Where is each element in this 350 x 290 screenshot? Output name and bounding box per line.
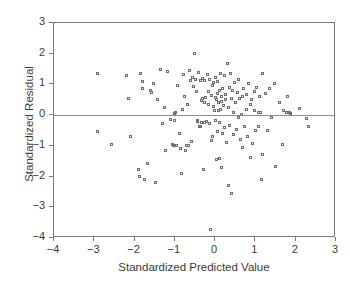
data-point [213, 109, 216, 112]
data-point [159, 68, 162, 71]
data-point [139, 72, 142, 75]
data-point [169, 118, 172, 121]
data-point [242, 87, 245, 90]
data-point [240, 113, 243, 116]
data-point [210, 139, 213, 142]
data-point [286, 95, 289, 98]
data-point [220, 95, 223, 98]
data-point [190, 140, 193, 143]
data-point [234, 101, 237, 104]
data-point [239, 138, 242, 141]
y-tick-mark [49, 237, 53, 238]
data-point [161, 122, 164, 125]
data-point [178, 132, 181, 135]
data-point [216, 80, 219, 83]
data-point [264, 92, 267, 95]
data-point [266, 129, 269, 132]
data-point [207, 90, 210, 93]
data-point [258, 95, 261, 98]
data-point [96, 130, 99, 133]
data-point [194, 78, 197, 81]
data-point [261, 72, 264, 75]
data-point [227, 106, 230, 109]
data-point [219, 108, 222, 111]
y-axis-label: Standardized Residual [23, 39, 35, 209]
data-point [208, 122, 211, 125]
data-point [187, 144, 190, 147]
data-point [273, 82, 276, 85]
data-point [216, 92, 219, 95]
data-point [289, 112, 292, 115]
data-point [174, 111, 177, 114]
data-point [196, 120, 199, 123]
data-point [203, 79, 206, 82]
data-point [210, 94, 213, 97]
data-point [249, 156, 252, 159]
data-point [261, 153, 264, 156]
data-point [232, 111, 235, 114]
data-point [141, 80, 144, 83]
data-point [270, 116, 273, 119]
data-point [211, 135, 214, 138]
data-point [218, 157, 221, 160]
data-point [188, 69, 191, 72]
data-point [164, 149, 167, 152]
data-point [193, 52, 196, 55]
data-point [232, 133, 235, 136]
data-point [186, 103, 189, 106]
data-point [141, 87, 144, 90]
y-tick-mark [49, 22, 53, 23]
x-tick-label: −2 [119, 243, 149, 256]
data-point [224, 98, 227, 101]
data-point [207, 103, 210, 106]
y-tick-mark [49, 206, 53, 207]
data-point [214, 119, 217, 122]
data-point [96, 72, 99, 75]
data-point [231, 89, 234, 92]
data-point [243, 125, 246, 128]
data-point [152, 82, 155, 85]
data-point [181, 108, 184, 111]
data-point [223, 126, 226, 129]
data-point [209, 228, 212, 231]
data-point [156, 98, 159, 101]
data-point [212, 81, 215, 84]
data-point [127, 97, 130, 100]
data-point [229, 72, 232, 75]
data-point [219, 72, 222, 75]
data-point [305, 117, 308, 120]
data-point [216, 130, 219, 133]
data-point [278, 101, 281, 104]
scatter-plot-figure: −4−3−2−10123 3210−1−2−3−4 Standardized P… [0, 0, 350, 290]
data-point [237, 116, 240, 119]
data-point [236, 91, 239, 94]
data-point [143, 178, 146, 181]
data-point [110, 143, 113, 146]
x-tick-label: 1 [239, 243, 269, 256]
data-point [202, 168, 205, 171]
data-point [250, 98, 253, 101]
data-point [137, 168, 140, 171]
data-point [249, 103, 252, 106]
data-point [274, 165, 277, 168]
data-point [154, 181, 157, 184]
data-point [175, 144, 178, 147]
y-tick-mark [49, 114, 53, 115]
data-point [251, 142, 254, 145]
data-point [197, 71, 200, 74]
data-point [150, 91, 153, 94]
data-point [247, 82, 250, 85]
data-point [199, 125, 202, 128]
data-point [298, 107, 301, 110]
zero-reference-line [54, 115, 334, 116]
data-point [228, 124, 231, 127]
data-point [260, 178, 263, 181]
data-point [233, 81, 236, 84]
x-tick-mark [254, 237, 255, 241]
data-point [228, 86, 231, 89]
y-tick-label: 3 [27, 15, 45, 28]
data-point [125, 74, 128, 77]
data-point [212, 105, 215, 108]
data-point [179, 147, 182, 150]
data-point [257, 125, 260, 128]
